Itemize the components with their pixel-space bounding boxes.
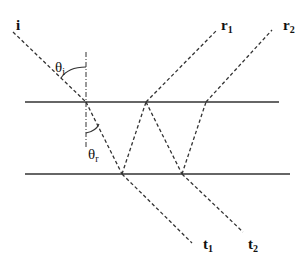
transmitted-ray-t1 — [122, 174, 192, 243]
label-theta-i: θi — [55, 59, 65, 77]
internal-reflected-2 — [146, 102, 182, 174]
label-t1: t1 — [203, 236, 213, 254]
internal-reflected-1 — [122, 102, 146, 174]
incident-ray — [13, 32, 86, 102]
refracted-ray-1 — [86, 102, 122, 174]
internal-reflected-3 — [182, 102, 206, 174]
label-r1: r1 — [221, 17, 233, 35]
reflected-ray-r2 — [206, 30, 272, 102]
reflected-ray-r1 — [146, 30, 217, 102]
thin-film-diagram: i θi θr r1 r2 t1 t2 — [0, 0, 308, 268]
label-theta-r: θr — [88, 146, 99, 164]
label-t2: t2 — [248, 236, 258, 254]
label-incident: i — [16, 17, 20, 33]
label-r2: r2 — [283, 17, 295, 35]
transmitted-ray-t2 — [182, 174, 243, 232]
